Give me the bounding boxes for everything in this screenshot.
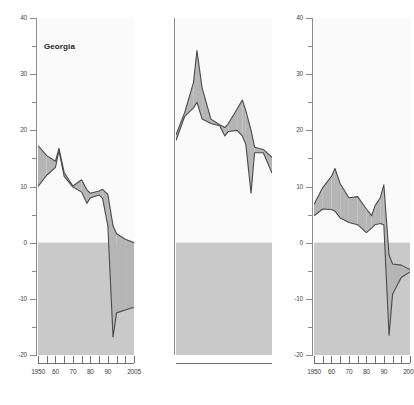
plot-svg-2 xyxy=(314,18,410,355)
plot-area-1 xyxy=(176,18,272,355)
plot-svg-0 xyxy=(38,18,134,355)
y-axis-label: 20 xyxy=(1,126,27,133)
y-axis-label: 10 xyxy=(1,183,27,190)
y-tick-major xyxy=(30,18,37,19)
y-axis-label: -20 xyxy=(1,351,27,358)
y-tick-minor xyxy=(32,46,37,47)
y-tick-minor xyxy=(32,327,37,328)
plot-area-2 xyxy=(314,18,410,355)
x-tick xyxy=(38,356,39,363)
x-tick xyxy=(90,356,91,363)
x-tick xyxy=(82,356,83,363)
chart-panel-latvia: 403020100-10-20 1950607080902005 Latvia xyxy=(276,0,414,405)
x-tick xyxy=(117,356,118,363)
y-axis-label: 40 xyxy=(1,14,27,21)
y-tick-major xyxy=(30,130,37,131)
y-axis-label: 30 xyxy=(1,70,27,77)
x-tick xyxy=(47,356,48,363)
x-axis-line-2 xyxy=(314,363,410,364)
y-axis-label: 0 xyxy=(1,239,27,246)
y-tick-minor xyxy=(32,215,37,216)
chart-panel-georgia: 403020100-10-20 1950607080902005 Georgia xyxy=(0,0,138,405)
chart-panel-kyrgyzstan: 403020100-10-20 1950607080902005 Kyrgyzs… xyxy=(138,0,276,405)
y-tick-minor xyxy=(32,102,37,103)
x-axis-line-0 xyxy=(38,363,134,364)
plot-area-0 xyxy=(38,18,134,355)
x-tick xyxy=(99,356,100,363)
y-tick-major xyxy=(30,187,37,188)
y-axis-line-2 xyxy=(312,18,313,355)
panel-title-georgia: Georgia xyxy=(44,42,75,51)
y-tick-major xyxy=(30,243,37,244)
x-tick xyxy=(108,356,109,363)
y-tick-minor xyxy=(32,271,37,272)
x-axis-label: 90 xyxy=(95,368,121,375)
x-tick xyxy=(134,356,135,363)
y-tick-minor xyxy=(32,158,37,159)
chart-figure: 403020100-10-20 1950607080902005 Georgia… xyxy=(0,0,414,405)
x-tick xyxy=(64,356,65,363)
plot-svg-1 xyxy=(176,18,272,355)
y-axis-label: -10 xyxy=(1,295,27,302)
x-axis-line-1 xyxy=(176,363,272,364)
y-tick-major xyxy=(30,74,37,75)
x-tick xyxy=(55,356,56,363)
x-tick xyxy=(125,356,126,363)
x-tick xyxy=(73,356,74,363)
y-tick-major xyxy=(30,355,37,356)
y-axis-line-1 xyxy=(174,18,175,355)
y-tick-major xyxy=(30,299,37,300)
